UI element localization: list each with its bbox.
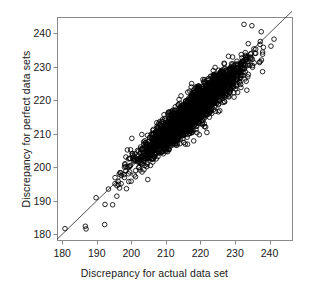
x-tick-label: 180: [53, 247, 71, 259]
x-tick-label: 200: [123, 247, 141, 259]
plot-canvas: [0, 0, 309, 289]
x-tick-label: 190: [88, 247, 106, 259]
x-tick-label: 230: [226, 247, 244, 259]
x-tick-label: 210: [157, 247, 175, 259]
x-tick-label: 240: [261, 247, 279, 259]
y-axis-title-container: Discrepancy for perfect data sets: [20, 19, 34, 239]
x-tick-label: 220: [192, 247, 210, 259]
x-axis-title: Discrepancy for actual data set: [0, 267, 309, 279]
y-axis-title: Discrepancy for perfect data sets: [20, 19, 32, 239]
scatter-plot-figure: 180190200210220230240 180190200210220230…: [0, 0, 309, 289]
